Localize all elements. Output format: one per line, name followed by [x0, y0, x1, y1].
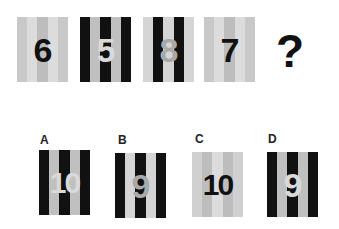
digit: 7: [221, 33, 239, 67]
sequence-card-4: 7: [204, 17, 255, 82]
digit: 5: [97, 33, 115, 67]
option-label-b: B: [118, 133, 127, 147]
option-d[interactable]: 9: [267, 152, 318, 217]
question-mark: ?: [276, 24, 304, 78]
digit: 10: [50, 168, 79, 198]
option-c[interactable]: 10: [192, 152, 243, 217]
sequence-card-2: 5: [80, 17, 131, 82]
option-a[interactable]: 10: [39, 150, 90, 215]
digit: 9: [132, 169, 150, 203]
option-label-c: C: [195, 132, 204, 146]
digit: 9: [284, 168, 302, 202]
digit: 10: [203, 170, 232, 200]
option-b[interactable]: 9: [115, 153, 166, 218]
digit: 6: [34, 33, 52, 67]
option-label-d: D: [268, 132, 277, 146]
digit: 8: [160, 33, 178, 67]
sequence-card-3: 8: [143, 17, 194, 82]
sequence-card-1: 6: [17, 17, 68, 82]
option-label-a: A: [40, 133, 49, 147]
